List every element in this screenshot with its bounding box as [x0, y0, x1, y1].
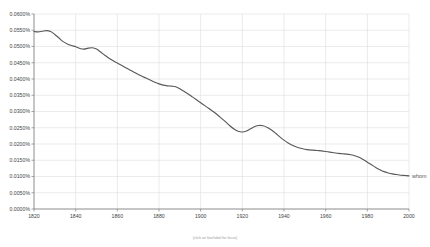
y-tick-label: 0.0250% — [10, 125, 31, 131]
y-tick-label: 0.0600% — [10, 11, 31, 17]
x-tick-label: 1820 — [28, 213, 40, 219]
x-tick-label: 1840 — [70, 213, 82, 219]
ngram-chart: 0.0600%0.0550%0.0500%0.0450%0.0400%0.035… — [0, 0, 430, 247]
x-tick-label: 1980 — [362, 213, 374, 219]
series-inline-label-whom[interactable]: whom — [411, 173, 427, 179]
x-tick-label: 1920 — [237, 213, 249, 219]
x-tick-label: 1880 — [153, 213, 165, 219]
y-tick-label: 0.0000% — [10, 206, 31, 212]
chart-footer-note: (click on line/label for focus) — [193, 236, 237, 240]
y-tick-label: 0.0550% — [10, 27, 31, 33]
y-tick-label: 0.0500% — [10, 43, 31, 49]
chart-canvas: 0.0600%0.0550%0.0500%0.0450%0.0400%0.035… — [0, 0, 430, 247]
x-tick-label: 1860 — [112, 213, 124, 219]
x-tick-label: 2000 — [403, 213, 415, 219]
chart-background — [0, 0, 430, 247]
y-tick-label: 0.0450% — [10, 60, 31, 66]
x-tick-label: 1960 — [320, 213, 332, 219]
y-tick-label: 0.0050% — [10, 190, 31, 196]
y-tick-label: 0.0400% — [10, 76, 31, 82]
x-tick-label: 1900 — [195, 213, 207, 219]
y-tick-label: 0.0200% — [10, 141, 31, 147]
x-tick-label: 1940 — [278, 213, 290, 219]
y-tick-label: 0.0300% — [10, 108, 31, 114]
y-tick-label: 0.0350% — [10, 92, 31, 98]
y-tick-label: 0.0150% — [10, 157, 31, 163]
y-tick-label: 0.0100% — [10, 173, 31, 179]
